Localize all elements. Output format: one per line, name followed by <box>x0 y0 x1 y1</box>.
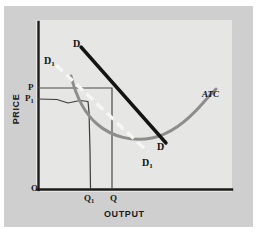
demand-shift-top-label: D1 <box>44 55 55 66</box>
demand-curve-top-label: D <box>73 38 80 49</box>
quantity-low-subscript: 1 <box>91 197 94 204</box>
atc-curve <box>71 76 216 139</box>
x-axis-title: OUTPUT <box>104 209 145 219</box>
y-axis-title: PRICE <box>11 85 21 133</box>
demand-shift-bottom-subscript: 1 <box>149 162 153 170</box>
quantity-low-letter: Q <box>84 193 91 203</box>
price-low-letter: P <box>25 93 31 103</box>
price-high-label: P <box>28 82 34 92</box>
quantity-low-label: Q1 <box>84 193 94 203</box>
demand-shift-bottom-label: D1 <box>142 157 153 168</box>
price-low-subscript: 1 <box>31 97 34 104</box>
demand-shift-top-subscript: 1 <box>51 60 55 68</box>
chart-canvas <box>0 0 259 232</box>
price-low-label: P1 <box>25 93 34 103</box>
demand-curve-bottom-label: D <box>157 141 164 152</box>
screenshot-root: PRICE OUTPUT O P P1 Q1 Q D D D1 D1 ATC <box>0 0 259 232</box>
origin-label: O <box>31 183 38 193</box>
atc-curve-label: ATC <box>202 89 219 99</box>
quantity-high-label: Q <box>110 193 117 203</box>
kinked-price-path <box>38 99 91 189</box>
price-reference-lines <box>38 88 112 189</box>
